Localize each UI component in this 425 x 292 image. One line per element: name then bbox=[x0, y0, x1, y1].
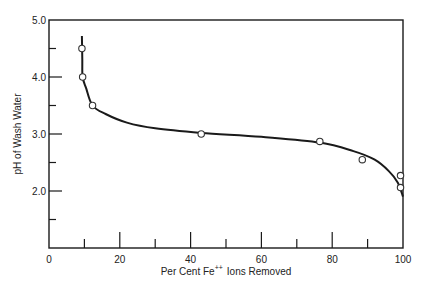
curve-line bbox=[82, 36, 403, 197]
y-tick-label: 3.0 bbox=[32, 129, 46, 140]
y-axis-label: pH of Wash Water bbox=[12, 93, 23, 175]
data-point-marker bbox=[397, 172, 403, 178]
data-point-marker bbox=[89, 102, 95, 108]
chart: 020406080100 2.03.04.05.0 Per Cent Fe++I… bbox=[0, 0, 425, 292]
x-axis-label: Per Cent Fe++Ions Removed bbox=[161, 264, 292, 277]
y-tick-label: 4.0 bbox=[32, 72, 46, 83]
x-tick-label: 100 bbox=[395, 254, 412, 265]
fitted-curve bbox=[82, 36, 403, 197]
y-tick-label: 5.0 bbox=[32, 15, 46, 26]
data-points bbox=[79, 45, 404, 190]
data-point-marker bbox=[198, 131, 204, 137]
data-point-marker bbox=[397, 184, 403, 190]
x-tick-label: 40 bbox=[185, 254, 197, 265]
x-tick-label: 20 bbox=[114, 254, 126, 265]
data-point-marker bbox=[359, 156, 365, 162]
data-point-marker bbox=[317, 138, 323, 144]
y-axis-ticks: 2.03.04.05.0 bbox=[32, 15, 62, 220]
x-tick-label: 80 bbox=[327, 254, 339, 265]
x-tick-label: 60 bbox=[256, 254, 268, 265]
y-tick-label: 2.0 bbox=[32, 186, 46, 197]
data-point-marker bbox=[79, 74, 85, 80]
data-point-marker bbox=[79, 45, 85, 51]
x-tick-label: 0 bbox=[46, 254, 52, 265]
